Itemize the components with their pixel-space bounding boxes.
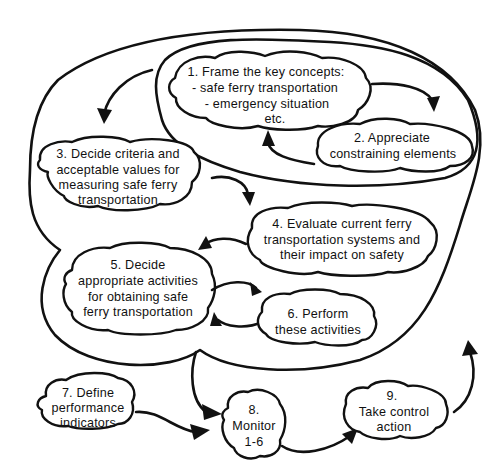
arrow-1-to-3 [104, 70, 152, 114]
node-7-line-3: indicators [60, 416, 116, 430]
node-8-line-1: 8. [249, 403, 260, 417]
arrow-loop-to-8-head [202, 404, 222, 420]
arrow-1-to-2 [372, 84, 432, 100]
node-8-line-2: Monitor [232, 419, 275, 433]
arrow-6-to-5 [218, 320, 262, 326]
arrow-5-to-6 [212, 282, 256, 290]
node-3-line-2: acceptable values for [56, 163, 179, 177]
arrow-9-to-loop-head [462, 340, 478, 356]
node-8-line-3: 1-6 [245, 435, 264, 449]
arrow-8-to-9 [282, 436, 350, 452]
node-4-line-1: 4. Evaluate current ferry [272, 217, 412, 231]
arrow-2-to-1 [268, 142, 314, 164]
arrow-9-to-loop [454, 352, 473, 412]
arrow-6-to-5-head [210, 312, 222, 326]
arrow-loop-to-8 [192, 352, 206, 412]
node-4-line-2: transportation systems and [264, 233, 420, 247]
node-5-line-4: ferry transportation [83, 305, 193, 319]
node-1-line-2: - safe ferry transportation [192, 81, 338, 95]
node-3-line-1: 3. Decide criteria and [56, 147, 179, 161]
node-9-line-3: action [377, 420, 412, 434]
arrow-2-to-1-head [262, 130, 275, 146]
node-4-line-3: their impact on safety [280, 248, 405, 262]
process-diagram: 1. Frame the key concepts: - safe ferry … [0, 0, 502, 468]
arrow-7-to-8-head [190, 424, 210, 440]
arrow-5-to-6-head [250, 282, 262, 296]
node-7-line-1: 7. Define [62, 386, 114, 400]
node-2-cloud [317, 119, 473, 172]
node-3-line-3: measuring safe ferry [59, 178, 178, 192]
node-5-line-3: for obtaining safe [88, 290, 188, 304]
node-2-line-2: constraining elements [330, 147, 457, 161]
node-6-line-1: 6. Perform [288, 307, 349, 321]
arrow-1-to-2-head [427, 96, 440, 112]
node-3-line-4: transportation [78, 193, 158, 207]
node-5-line-1: 5. Decide [110, 258, 165, 272]
arrow-3-to-4-head [242, 192, 255, 206]
node-1-line-4: etc. [264, 112, 285, 126]
node-6-line-2: these activities [275, 323, 361, 337]
node-5-line-2: appropriate activities [78, 274, 198, 288]
node-9-line-1: 9. [387, 389, 398, 403]
node-9-line-2: Take control [359, 405, 429, 419]
node-5-cloud [64, 243, 215, 335]
node-1-line-3: - emergency situation [205, 97, 330, 111]
node-1-line-1: 1. Frame the key concepts: [187, 65, 344, 79]
arrow-4-to-5 [205, 239, 246, 244]
arrow-4-to-5-head [198, 236, 212, 250]
arrow-3-to-4 [212, 177, 248, 194]
arrow-7-to-8 [136, 412, 196, 432]
node-7-line-2: performance [52, 401, 125, 415]
node-2-line-1: 2. Appreciate [354, 131, 430, 145]
arrow-1-to-3-head [97, 108, 112, 124]
